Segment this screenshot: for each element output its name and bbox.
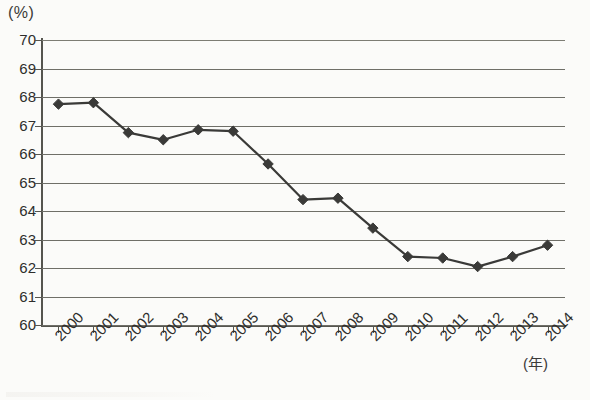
gridline-61: [41, 297, 565, 298]
y-tick-label-63: 63: [2, 232, 36, 247]
y-tick-mark-65: [35, 183, 42, 184]
line-chart: (%) (年) 7069686766656463626160 200020012…: [0, 0, 590, 400]
y-tick-mark-69: [35, 69, 42, 70]
y-tick-label-70: 70: [2, 32, 36, 47]
gridline-69: [41, 69, 565, 70]
y-tick-label-69: 69: [2, 61, 36, 76]
gridline-65: [41, 183, 565, 184]
y-tick-label-66: 66: [2, 146, 36, 161]
scan-artifact: [6, 392, 216, 397]
x-axis-unit-label: (年): [523, 352, 548, 373]
y-axis-ticks: 7069686766656463626160: [0, 0, 36, 400]
gridline-66: [41, 154, 565, 155]
gridlines: [41, 40, 565, 325]
gridline-63: [41, 240, 565, 241]
y-tick-mark-70: [35, 40, 42, 41]
y-tick-label-64: 64: [2, 203, 36, 218]
y-tick-mark-60: [35, 325, 42, 326]
y-tick-mark-64: [35, 211, 42, 212]
gridline-64: [41, 211, 565, 212]
gridline-67: [41, 126, 565, 127]
gridline-68: [41, 97, 565, 98]
y-tick-mark-62: [35, 268, 42, 269]
y-tick-mark-67: [35, 126, 42, 127]
gridline-62: [41, 268, 565, 269]
y-tick-mark-63: [35, 240, 42, 241]
y-tick-label-61: 61: [2, 289, 36, 304]
y-tick-label-68: 68: [2, 89, 36, 104]
y-tick-label-62: 62: [2, 260, 36, 275]
y-tick-label-60: 60: [2, 317, 36, 332]
y-tick-mark-66: [35, 154, 42, 155]
y-tick-label-67: 67: [2, 118, 36, 133]
y-tick-mark-61: [35, 297, 42, 298]
y-tick-mark-68: [35, 97, 42, 98]
gridline-70: [41, 40, 565, 41]
y-tick-label-65: 65: [2, 175, 36, 190]
